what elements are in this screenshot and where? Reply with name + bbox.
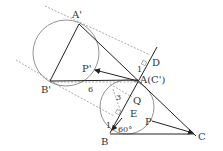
label-angle-1-bottom: 1 [106,121,111,130]
label-c: C [198,131,206,142]
line-aprime-bprime [50,24,79,81]
dashed-tangent-top [45,6,150,55]
dashed-tangent-left [16,60,60,86]
label-q: Q [133,95,141,106]
right-angle-mark-e [115,109,120,114]
label-a-prime: A' [71,9,82,20]
label-p-prime: P' [82,63,91,74]
dashed-bprime-b [50,81,114,116]
label-angle-60: 60° [118,125,132,134]
label-b-prime: B' [41,84,51,95]
label-a-cprime: A(C') [139,74,166,85]
circle-upper [33,20,99,86]
label-length-6: 6 [88,85,93,94]
right-angle-mark-d [141,60,146,65]
diagram-svg: A' B' A(C') B C P' P Q D E 6 3 1 1 60° [0,0,223,151]
arrow-a-pprime [95,70,138,81]
label-length-3: 3 [116,93,121,102]
label-d: D [152,57,160,68]
label-angle-1-top: 1 [137,65,142,74]
label-e: E [130,108,137,119]
line-bprime-a [50,80,138,81]
label-b: B [101,136,108,147]
label-p: P [145,116,152,127]
geometry-diagram: A' B' A(C') B C P' P Q D E 6 3 1 1 60° [0,0,223,151]
